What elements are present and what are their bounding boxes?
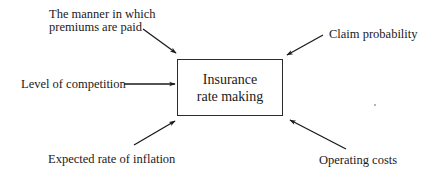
- factor-premium-payment: The manner in which premiums are paid: [49, 8, 156, 34]
- factor-operating-costs: Operating costs: [319, 154, 397, 167]
- center-node-line1: Insurance: [203, 71, 257, 88]
- stray-dot: [374, 104, 376, 106]
- arrow-claim-probability: [287, 35, 323, 55]
- factor-competition: Level of competition: [21, 78, 126, 91]
- arrow-inflation: [134, 121, 175, 145]
- center-node-line2: rate making: [197, 88, 263, 105]
- factor-claim-probability: Claim probability: [329, 28, 418, 41]
- arrow-operating-costs: [290, 120, 346, 149]
- factor-inflation: Expected rate of inflation: [48, 153, 175, 166]
- diagram-canvas: Insurance rate making The manner in whic…: [0, 0, 428, 176]
- center-node-insurance-rate-making: Insurance rate making: [177, 59, 283, 116]
- factor-premium-payment-line2: premiums are paid: [49, 21, 156, 34]
